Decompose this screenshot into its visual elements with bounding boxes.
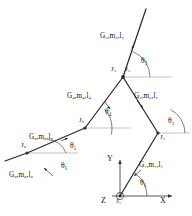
angle-label-theta2: θ₂	[168, 117, 174, 125]
angle-label-theta6: θ₆	[61, 162, 67, 170]
joint-label-j5: J₅	[79, 117, 84, 124]
angle-arc-theta6	[48, 140, 67, 153]
axis-label-x: X	[160, 197, 166, 205]
angle-arcs	[48, 52, 186, 196]
link-4-segment	[85, 77, 123, 128]
link-1-property-label: G₁,m₁,l₁	[139, 162, 163, 169]
leader-link2	[137, 101, 143, 108]
angle-label-theta4: θ₄	[105, 108, 111, 116]
angle-label-theta5: θ₅	[70, 142, 76, 150]
angle-label-theta3: θ₃	[141, 57, 147, 65]
link-chain	[5, 9, 158, 196]
link-6-property-label: G₆,m₆,l₆	[9, 172, 33, 179]
joint-label-j1: J₁	[116, 198, 121, 205]
joint-label-j3: J₃	[125, 66, 130, 73]
joint-markers	[25, 75, 159, 154]
joint-label-j6: J₆	[21, 142, 26, 149]
link-6-segment	[5, 153, 27, 161]
diagram-canvas: G₁,m₁,l₁ G₂,m₂,l₂ G₃,m₃,l₃ G₄,m₄,l₄ G₅,m…	[0, 0, 192, 216]
link-4-property-label: G₄,m₄,l₄	[67, 93, 91, 100]
axis-label-z: Z	[101, 197, 106, 205]
angle-arc-theta5-group	[111, 128, 112, 135]
joint-marker-j5	[83, 126, 86, 129]
link-5-property-label: G₅,m₅,l₅	[29, 134, 53, 141]
link-2-property-label: G₂,m₂,l₂	[134, 93, 158, 100]
diagram-vector-layer	[0, 0, 192, 216]
leader-link6	[44, 168, 53, 176]
angle-label-theta1: θ₁	[140, 179, 146, 187]
axis-label-y: Y	[107, 155, 113, 163]
joint-marker-j6	[25, 151, 28, 154]
joint-label-j4: J₄	[111, 66, 116, 73]
joint-label-j2: J₂	[160, 134, 165, 141]
angle-arc-theta5-path	[111, 128, 112, 135]
joint-marker-j3-j4	[121, 75, 125, 79]
link-3-property-label: G₃,m₃,l₃	[100, 33, 124, 40]
